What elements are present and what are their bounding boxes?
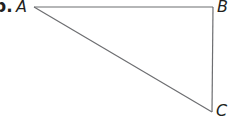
triangle-diagram (0, 0, 230, 125)
side-ac (34, 7, 212, 112)
side-bc (212, 7, 213, 112)
